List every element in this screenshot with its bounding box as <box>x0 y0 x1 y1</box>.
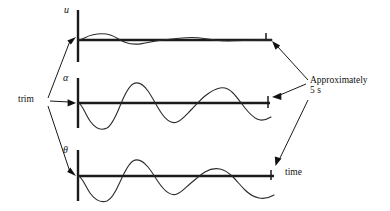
duration-leader-alpha <box>280 84 306 95</box>
theta-response-curve <box>78 160 274 202</box>
figure-canvas <box>0 0 390 211</box>
time-axis-label: time <box>285 168 302 178</box>
signal-label-u: u <box>64 5 69 16</box>
figure-root: u α θ trim time Approximately 5 s <box>0 0 390 211</box>
trim-arrowhead-alpha <box>68 99 76 106</box>
approximate-duration-line1: Approximately <box>310 75 368 85</box>
panel-alpha <box>78 78 271 129</box>
duration-leader-theta <box>280 100 308 158</box>
trim-label: trim <box>18 95 34 105</box>
approximate-duration-line2: 5 s <box>310 86 368 96</box>
trim-callout-arrows <box>48 37 76 176</box>
panel-u <box>78 10 272 62</box>
duration-leader-u <box>278 47 308 80</box>
duration-callout-arrows <box>272 41 308 166</box>
duration-arrowhead-alpha <box>272 93 281 100</box>
signal-label-theta: θ <box>63 145 68 156</box>
panel-theta <box>78 150 274 202</box>
trim-leader-u <box>48 41 70 98</box>
trim-leader-alpha <box>50 101 69 102</box>
alpha-response-curve <box>78 83 271 129</box>
signal-label-alpha: α <box>63 73 68 84</box>
approximate-duration-note: Approximately 5 s <box>310 76 368 96</box>
trim-leader-theta <box>48 106 70 172</box>
